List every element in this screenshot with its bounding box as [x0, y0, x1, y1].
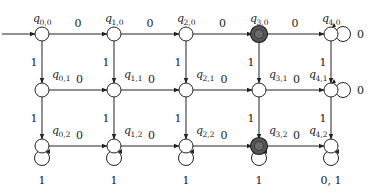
- state-q10: q1,0: [105, 12, 124, 41]
- state-label-subscript: 2,2: [203, 130, 215, 139]
- edge-label: 1: [248, 56, 255, 69]
- state-label-subscript: 2,1: [203, 74, 215, 83]
- state-circle: [179, 27, 193, 41]
- edge-label: 1: [320, 112, 327, 125]
- edge-label: 1: [31, 112, 38, 125]
- state-q22: q2,2: [179, 124, 215, 153]
- loop-label: 0: [357, 28, 364, 41]
- state-label-subscript: 4,2: [316, 130, 328, 139]
- state-q40: q4,0: [322, 12, 341, 41]
- edge-label: 0: [293, 73, 300, 86]
- loop-label: 1: [39, 174, 46, 187]
- edge-label: 1: [103, 56, 110, 69]
- state-q42: q4,2: [309, 124, 338, 153]
- state-label-subscript: 0,1: [59, 74, 71, 83]
- state-q30: q3,0: [250, 12, 269, 43]
- loop-label: 0: [357, 84, 364, 97]
- loop-label: 1: [111, 174, 118, 187]
- state-q12: q1,2: [107, 124, 143, 153]
- state-label-subscript: 3,2: [276, 130, 288, 139]
- edge-label: 0: [76, 73, 83, 86]
- state-q00: q0,0: [33, 12, 52, 41]
- state-label-subscript: 3,1: [276, 74, 288, 83]
- automaton-diagram: q0,0q1,0q2,0q3,0q4,0q0,1q1,1q2,1q3,1q4,1…: [0, 0, 375, 193]
- edge-label: 0: [220, 73, 227, 86]
- state-circle: [324, 83, 338, 97]
- edge-label: 0: [147, 17, 154, 30]
- state-q32: q3,2: [251, 124, 288, 155]
- edge-label: 0: [148, 129, 155, 142]
- state-label-subscript: 4,0: [329, 18, 341, 27]
- state-circle: [107, 83, 121, 97]
- state-label-subscript: 0,2: [59, 130, 71, 139]
- edge-label: 1: [320, 56, 327, 69]
- edge-label: 0: [292, 17, 299, 30]
- state-label-subscript: 1,0: [112, 18, 124, 27]
- edge-label: 1: [248, 112, 255, 125]
- state-circle: [107, 27, 121, 41]
- edge-label: 1: [175, 56, 182, 69]
- edge-label: 1: [175, 112, 182, 125]
- accepting-state-inner: [255, 30, 264, 39]
- state-label-subscript: 1,1: [131, 74, 143, 83]
- edge-label: 0: [293, 129, 300, 142]
- state-circle: [179, 83, 193, 97]
- state-q21: q2,1: [179, 68, 214, 97]
- state-circle: [324, 139, 338, 153]
- loop-arrowhead: [332, 79, 336, 83]
- edge-label: 0: [75, 17, 82, 30]
- state-label-subscript: 0,0: [40, 18, 52, 27]
- edge-labels: 00000000000011111111110011110, 1: [31, 17, 365, 187]
- state-circle: [107, 139, 121, 153]
- state-q11: q1,1: [107, 68, 142, 97]
- state-q20: q2,0: [177, 12, 196, 41]
- edge-label: 1: [31, 56, 38, 69]
- state-circle: [35, 83, 49, 97]
- state-circle: [179, 139, 193, 153]
- loop-label: 1: [183, 174, 190, 187]
- state-label-subscript: 2,0: [184, 18, 196, 27]
- state-label-subscript: 4,1: [316, 74, 328, 83]
- state-q02: q0,2: [35, 124, 71, 153]
- state-circle: [35, 27, 49, 41]
- loop-label: 1: [256, 174, 263, 187]
- state-q31: q3,1: [252, 68, 287, 97]
- state-circle: [35, 139, 49, 153]
- loop-label: 0, 1: [321, 174, 342, 187]
- state-label-subscript: 3,0: [257, 18, 269, 27]
- edge-label: 0: [220, 129, 227, 142]
- edge-label: 0: [219, 17, 226, 30]
- edge-label: 1: [103, 112, 110, 125]
- state-circle: [324, 27, 338, 41]
- state-circle: [252, 83, 266, 97]
- state-q01: q0,1: [35, 68, 70, 97]
- edge-label: 0: [148, 73, 155, 86]
- edge-label: 0: [76, 129, 83, 142]
- accepting-state-inner: [255, 142, 264, 151]
- state-label-subscript: 1,2: [131, 130, 143, 139]
